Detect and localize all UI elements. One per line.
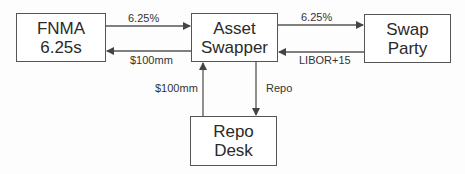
node-repo-desk-line1: Repo (213, 122, 254, 141)
label-swapper-to-swap-party: 6.25% (301, 11, 332, 23)
label-swapper-to-fnma: $100mm (130, 54, 173, 66)
node-asset-swapper-line2: Swapper (201, 38, 268, 57)
node-repo-desk: Repo Desk (190, 116, 277, 166)
node-swap-party: Swap Party (364, 14, 451, 63)
label-swap-party-to-swapper: LIBOR+15 (299, 54, 351, 66)
node-repo-desk-line2: Desk (214, 141, 253, 160)
node-asset-swapper: Asset Swapper (191, 13, 278, 62)
node-swap-party-line2: Party (388, 39, 428, 58)
node-asset-swapper-line1: Asset (213, 19, 256, 38)
label-repo-to-swapper: $100mm (155, 82, 198, 94)
node-swap-party-line1: Swap (386, 20, 429, 39)
node-fnma-line2: 6.25s (40, 38, 82, 57)
node-fnma-line1: FNMA (37, 19, 85, 38)
node-fnma: FNMA 6.25s (16, 13, 106, 62)
label-fnma-to-swapper: 6.25% (128, 12, 159, 24)
diagram-canvas: FNMA 6.25s Asset Swapper Swap Party Repo… (0, 0, 465, 174)
label-swapper-to-repo: Repo (266, 82, 292, 94)
